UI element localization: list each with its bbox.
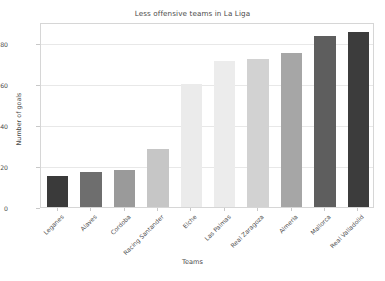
- x-axis-label: Teams: [0, 258, 385, 266]
- x-axis-tick-mark: [90, 208, 91, 211]
- y-axis-tick-label: 60: [0, 81, 8, 88]
- y-axis-tick-label: 20: [0, 163, 8, 170]
- bar: [247, 59, 268, 207]
- x-axis-tick-mark: [357, 208, 358, 211]
- bar: [80, 172, 101, 207]
- bar: [281, 53, 302, 207]
- bar-chart-figure: Less offensive teams in La Liga Number o…: [0, 0, 385, 281]
- x-axis-tick-mark: [257, 208, 258, 211]
- x-axis-tick-mark: [124, 208, 125, 211]
- bar: [114, 170, 135, 207]
- bar: [147, 149, 168, 207]
- bar: [314, 36, 335, 207]
- x-axis-tick-mark: [224, 208, 225, 211]
- x-axis-tick-mark: [157, 208, 158, 211]
- x-axis-tick-mark: [57, 208, 58, 211]
- x-axis-tick-mark: [190, 208, 191, 211]
- bar-series: [41, 24, 373, 207]
- plot-area: [40, 23, 374, 208]
- y-axis-tick-mark: [36, 208, 40, 209]
- y-axis-tick-label: 0: [0, 205, 8, 212]
- bar: [181, 84, 202, 207]
- y-axis-tick-label: 40: [0, 122, 8, 129]
- x-axis-tick-mark: [291, 208, 292, 211]
- bar: [47, 176, 68, 207]
- bar: [214, 61, 235, 207]
- chart-title: Less offensive teams in La Liga: [0, 9, 385, 18]
- x-axis-tick-label: Leganes: [0, 213, 65, 281]
- y-axis-label: Number of goals: [15, 59, 23, 179]
- bar: [348, 32, 369, 207]
- y-axis-tick-label: 80: [0, 40, 8, 47]
- x-axis-tick-mark: [324, 208, 325, 211]
